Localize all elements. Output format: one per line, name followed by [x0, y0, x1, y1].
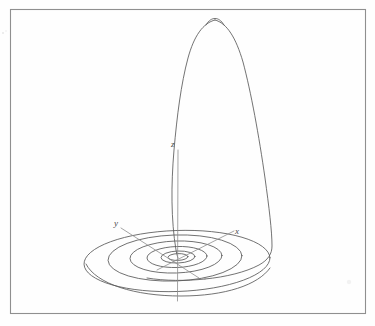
z-axis-label: z	[171, 140, 175, 149]
z-axis-line	[178, 150, 179, 301]
scan-artifact-corner	[347, 280, 351, 284]
x-axis-label: x	[235, 227, 239, 236]
surface-plot-svg	[0, 0, 375, 326]
y-axis-label: y	[114, 219, 118, 228]
page-background	[0, 0, 375, 326]
figure-container: x y z	[0, 0, 375, 326]
